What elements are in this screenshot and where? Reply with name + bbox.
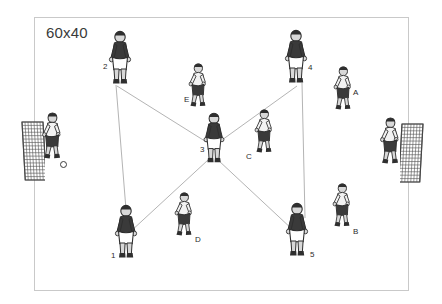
player-label-3: 3 xyxy=(200,145,204,154)
player-label-4: 4 xyxy=(308,63,312,72)
player-label-B: B xyxy=(353,227,358,236)
player-label-1: 1 xyxy=(111,251,115,260)
player-label-A: A xyxy=(353,88,358,97)
player-label-D: D xyxy=(195,235,201,244)
player-label-C: C xyxy=(246,152,252,161)
soccer-drill-diagram: 60x40 xyxy=(0,0,442,304)
player-label-2: 2 xyxy=(103,62,107,71)
player-label-E: E xyxy=(184,95,189,104)
players-layer: 2 4 E xyxy=(0,0,442,304)
player-label-5: 5 xyxy=(310,250,314,259)
